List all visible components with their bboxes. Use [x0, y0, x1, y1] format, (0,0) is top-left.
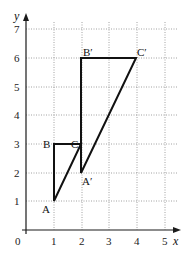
y-axis-label: y: [13, 9, 20, 23]
vertex-label-c: C: [71, 138, 78, 150]
vertex-label-b: B: [43, 138, 50, 150]
vertex-label-a: A: [42, 203, 50, 215]
y-axis-arrow-icon: [23, 13, 29, 21]
x-tick-4: 4: [134, 235, 140, 247]
x-tick-2: 2: [79, 235, 85, 247]
y-tick-5: 5: [14, 81, 20, 93]
triangle-abc-prime: [81, 58, 136, 173]
coordinate-diagram: y x 0 1 2 3 4 5 1 2 3 4 5 6 7 A B C A′ B…: [0, 0, 189, 261]
vertex-label-c-prime: C′: [137, 46, 147, 58]
y-tick-3: 3: [14, 138, 20, 150]
origin-label: 0: [15, 235, 21, 247]
x-tick-3: 3: [106, 235, 112, 247]
vertex-label-a-prime: A′: [82, 175, 92, 187]
triangle-abc: [54, 144, 81, 201]
y-tick-6: 6: [14, 52, 20, 64]
y-tick-4: 4: [14, 109, 20, 121]
x-axis-arrow-icon: [173, 227, 181, 233]
y-tick-7: 7: [14, 23, 20, 35]
x-tick-1: 1: [51, 235, 57, 247]
y-tick-2: 2: [14, 167, 20, 179]
x-axis-label: x: [172, 234, 179, 248]
grid-horizontal: [26, 29, 178, 201]
grid-vertical: [54, 22, 165, 230]
vertex-label-b-prime: B′: [83, 46, 93, 58]
x-tick-5: 5: [162, 235, 168, 247]
y-tick-1: 1: [14, 195, 20, 207]
